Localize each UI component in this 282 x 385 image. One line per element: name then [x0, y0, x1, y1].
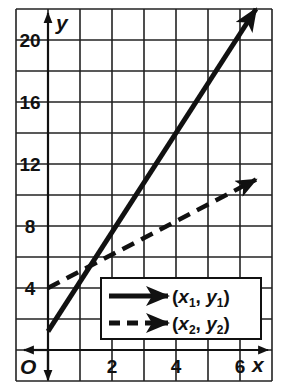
y-tick-label: 16 — [19, 92, 40, 113]
chart-canvas: yxO 24648121620 (x1, y1)(x2, y2) — [0, 0, 282, 385]
x-tick-label: 2 — [107, 356, 118, 377]
x-tick-label: 6 — [235, 356, 246, 377]
y-tick-label: 12 — [19, 154, 40, 175]
y-tick-label: 4 — [25, 278, 36, 299]
line-chart: yxO 24648121620 (x1, y1)(x2, y2) — [0, 0, 282, 385]
legend: (x1, y1)(x2, y2) — [101, 278, 261, 339]
x-axis-label: x — [251, 353, 265, 376]
y-tick-label: 8 — [25, 216, 36, 237]
y-axis-label: y — [55, 11, 69, 34]
y-tick-label: 20 — [19, 30, 40, 51]
x-tick-label: 4 — [171, 356, 182, 377]
origin-label: O — [20, 355, 36, 378]
